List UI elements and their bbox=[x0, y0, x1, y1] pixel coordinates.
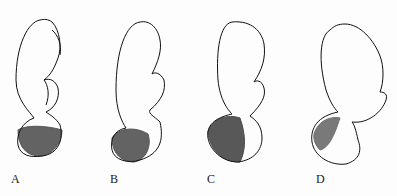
panel-label-b: B bbox=[110, 172, 118, 187]
fetal-presentation-figure: A B C D bbox=[0, 0, 397, 196]
fetus-b-drawing bbox=[112, 22, 165, 162]
fetus-d-drawing bbox=[312, 24, 387, 164]
fetal-drawings bbox=[0, 0, 397, 196]
fetus-a-drawing bbox=[16, 19, 62, 156]
panel-label-a: A bbox=[11, 172, 20, 187]
fetus-c-drawing bbox=[208, 22, 265, 162]
panel-label-c: C bbox=[207, 172, 215, 187]
panel-label-d: D bbox=[316, 172, 325, 187]
